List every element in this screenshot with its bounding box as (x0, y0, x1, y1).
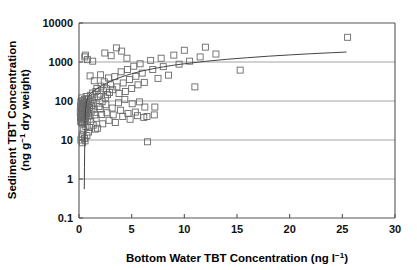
svg-text:(ng g−1 dry weight): (ng g−1 dry weight) (18, 69, 31, 171)
x-tick-label: 15 (231, 223, 243, 235)
x-tick-label: 30 (389, 223, 401, 235)
x-tick-label: 25 (336, 223, 348, 235)
y-tick-label: 10000 (42, 17, 73, 29)
chart-figure: 051015202530 0.1110100100010000 Bottom W… (0, 0, 417, 270)
x-tick-label: 20 (284, 223, 296, 235)
svg-text:Bottom Water TBT Concentration: Bottom Water TBT Concentration (ng l−1) (126, 251, 348, 264)
scatter-plot: 051015202530 0.1110100100010000 Bottom W… (0, 0, 417, 270)
x-axis-title: Bottom Water TBT Concentration (ng l−1) (126, 251, 348, 264)
y-tick-label: 10 (61, 134, 73, 146)
y-tick-label: 100 (55, 95, 73, 107)
y-tick-label: 0.1 (58, 212, 73, 224)
x-tick-label: 5 (129, 223, 135, 235)
y-tick-label: 1 (67, 173, 73, 185)
svg-text:Sediment TBT Concentration: Sediment TBT Concentration (6, 41, 18, 199)
x-tick-label: 10 (178, 223, 190, 235)
y-tick-label: 1000 (49, 56, 73, 68)
x-tick-label: 0 (76, 223, 82, 235)
